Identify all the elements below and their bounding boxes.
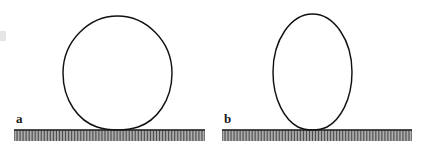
panel-label-a: a <box>16 111 23 126</box>
drop-outline-a <box>63 16 172 130</box>
hatch-ticks-b <box>223 130 412 141</box>
drop-outline-b <box>273 14 352 130</box>
figure-canvas: a b <box>0 0 430 146</box>
left-edge-artifact <box>0 31 6 41</box>
figure-container: a b <box>0 0 430 146</box>
panel-label-b: b <box>224 111 231 126</box>
